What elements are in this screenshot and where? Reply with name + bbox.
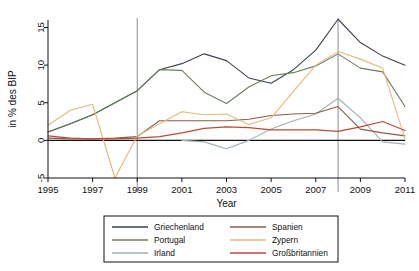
x-tick-label-2011: 2011 bbox=[395, 184, 415, 195]
x-tick-label-2001: 2001 bbox=[171, 184, 192, 195]
y-tick-label-15: 15 bbox=[35, 22, 46, 33]
x-tick-label-2005: 2005 bbox=[261, 184, 282, 195]
legend-label-spanien: Spanien bbox=[272, 222, 303, 232]
y-tick-label-10: 10 bbox=[35, 60, 46, 71]
y-tick-label-0: 0 bbox=[35, 138, 46, 143]
series-line-irland bbox=[182, 98, 405, 148]
plot-area bbox=[48, 18, 405, 192]
series-line-griechenland bbox=[48, 19, 405, 132]
x-tick-label-1995: 1995 bbox=[37, 184, 58, 195]
legend-label-irland: Irland bbox=[154, 248, 175, 258]
legend-label-zypern: Zypern bbox=[272, 235, 298, 245]
x-tick-label-2007: 2007 bbox=[305, 184, 326, 195]
legend-label-großbritannien: Großbritannien bbox=[272, 248, 328, 258]
chart-container: 199519971999200120032005200720092011-505… bbox=[0, 0, 419, 271]
y-axis-title: in % des BIP bbox=[7, 70, 18, 128]
chart-legend: GriechenlandSpanienPortugalZypernIrlandG… bbox=[104, 216, 338, 262]
series-line-großbritannien bbox=[48, 122, 405, 139]
series-line-zypern bbox=[48, 52, 405, 178]
x-tick-label-2009: 2009 bbox=[350, 184, 371, 195]
x-axis-title: Year bbox=[216, 198, 237, 209]
legend-label-portugal: Portugal bbox=[154, 235, 185, 245]
x-tick-label-2003: 2003 bbox=[216, 184, 237, 195]
x-tick-label-1999: 1999 bbox=[127, 184, 148, 195]
x-tick-label-1997: 1997 bbox=[82, 184, 103, 195]
line-chart: 199519971999200120032005200720092011-505… bbox=[0, 0, 419, 271]
legend-label-griechenland: Griechenland bbox=[154, 222, 204, 232]
y-tick-label-5: 5 bbox=[35, 100, 46, 105]
y-tick-label--5: -5 bbox=[35, 174, 46, 182]
